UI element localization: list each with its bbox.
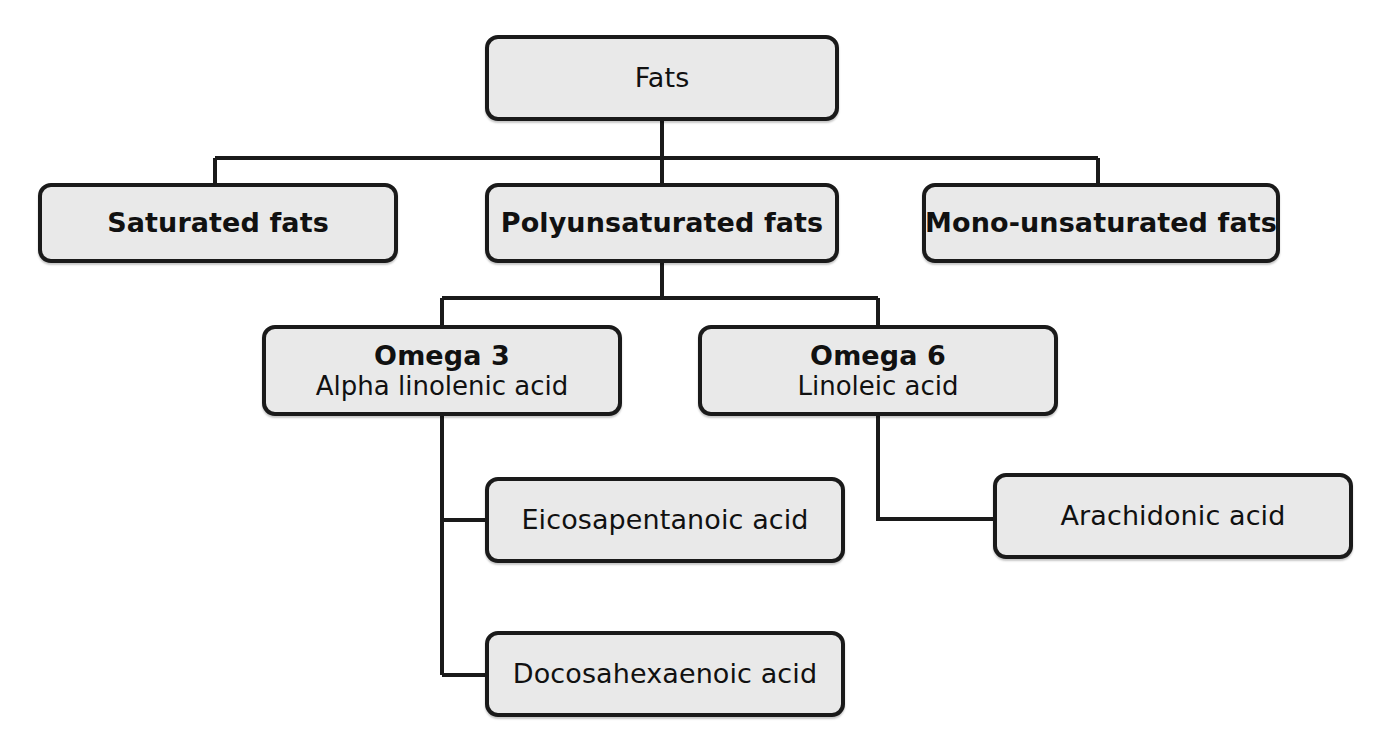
node-omega-6-label: Omega 6 bbox=[810, 340, 946, 371]
node-eicosapentanoic-acid-label: Eicosapentanoic acid bbox=[521, 504, 808, 535]
node-omega-6-sublabel: Linoleic acid bbox=[797, 371, 958, 401]
node-fats-label: Fats bbox=[635, 62, 690, 93]
node-mono-unsaturated-fats-label: Mono-unsaturated fats bbox=[925, 207, 1277, 238]
diagram-canvas: Fats Saturated fats Polyunsaturated fats… bbox=[0, 0, 1389, 750]
node-docosahexaenoic-acid-label: Docosahexaenoic acid bbox=[513, 658, 817, 689]
node-arachidonic-acid-label: Arachidonic acid bbox=[1061, 500, 1286, 531]
node-omega-3-sublabel: Alpha linolenic acid bbox=[316, 371, 568, 401]
node-polyunsaturated-fats[interactable]: Polyunsaturated fats bbox=[485, 183, 839, 263]
node-fats[interactable]: Fats bbox=[485, 35, 839, 121]
node-polyunsaturated-fats-label: Polyunsaturated fats bbox=[501, 207, 823, 238]
node-omega-3-label: Omega 3 bbox=[374, 340, 510, 371]
node-omega-3[interactable]: Omega 3 Alpha linolenic acid bbox=[262, 325, 622, 416]
node-omega-6[interactable]: Omega 6 Linoleic acid bbox=[698, 325, 1058, 416]
node-eicosapentanoic-acid[interactable]: Eicosapentanoic acid bbox=[485, 477, 845, 563]
node-arachidonic-acid[interactable]: Arachidonic acid bbox=[993, 473, 1353, 559]
node-mono-unsaturated-fats[interactable]: Mono-unsaturated fats bbox=[922, 183, 1280, 263]
node-saturated-fats-label: Saturated fats bbox=[107, 207, 329, 238]
edge-omega6-to-arachidonic bbox=[878, 416, 995, 519]
node-saturated-fats[interactable]: Saturated fats bbox=[38, 183, 398, 263]
node-docosahexaenoic-acid[interactable]: Docosahexaenoic acid bbox=[485, 631, 845, 717]
